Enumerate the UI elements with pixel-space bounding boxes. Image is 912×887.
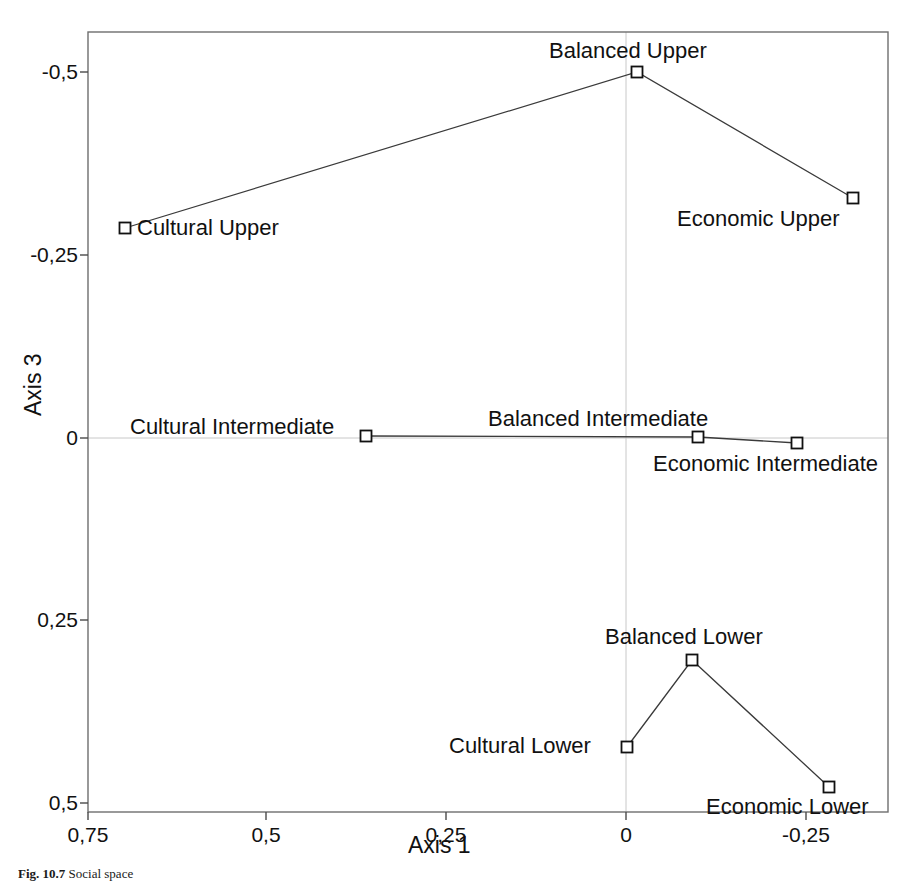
y-tick-label-4: 0,5 <box>0 792 78 813</box>
figure-container: -0,5 -0,25 0 0,25 0,5 0,75 0,5 0,25 0 -0… <box>0 0 912 887</box>
x-tick-label-0: 0,75 <box>28 824 148 845</box>
y-tick-label-2: 0 <box>0 427 78 448</box>
x-axis-title: Axis 1 <box>408 834 471 857</box>
marker-cultural-upper[interactable] <box>120 223 131 234</box>
figure-caption-label: Fig. 10.7 <box>18 866 65 881</box>
series-line-intermediate <box>366 436 797 443</box>
y-tick-label-3: 0,25 <box>0 609 78 630</box>
marker-balanced-upper[interactable] <box>632 67 643 78</box>
figure-caption-text: Social space <box>69 866 134 881</box>
series-line-lower <box>627 660 829 787</box>
point-label-cultural-upper: Cultural Upper <box>137 217 279 239</box>
x-tick-label-3: 0 <box>566 824 686 845</box>
point-label-economic-intermediate: Economic Intermediate <box>653 453 878 475</box>
point-label-economic-lower: Economic Lower <box>706 796 869 818</box>
point-label-cultural-intermediate: Cultural Intermediate <box>130 416 334 438</box>
y-axis-ticks <box>80 72 88 803</box>
series-line-upper <box>125 72 853 228</box>
x-axis-ticks <box>88 812 806 820</box>
point-label-economic-upper: Economic Upper <box>677 208 840 230</box>
point-label-balanced-lower: Balanced Lower <box>605 626 763 648</box>
marker-cultural-intermediate[interactable] <box>361 431 372 442</box>
figure-caption: Fig. 10.7 Social space <box>18 866 898 887</box>
point-label-balanced-upper: Balanced Upper <box>549 40 707 62</box>
y-axis-title: Axis 3 <box>22 353 45 416</box>
marker-economic-intermediate[interactable] <box>792 438 803 449</box>
marker-balanced-intermediate[interactable] <box>693 432 704 443</box>
x-tick-label-4: -0,25 <box>746 824 866 845</box>
marker-economic-lower[interactable] <box>824 782 835 793</box>
marker-economic-upper[interactable] <box>848 193 859 204</box>
y-tick-label-0: -0,5 <box>0 61 78 82</box>
point-label-cultural-lower: Cultural Lower <box>449 735 591 757</box>
marker-balanced-lower[interactable] <box>687 655 698 666</box>
point-label-balanced-intermediate: Balanced Intermediate <box>488 408 708 430</box>
x-tick-label-1: 0,5 <box>206 824 326 845</box>
y-tick-label-1: -0,25 <box>0 244 78 265</box>
marker-cultural-lower[interactable] <box>622 742 633 753</box>
